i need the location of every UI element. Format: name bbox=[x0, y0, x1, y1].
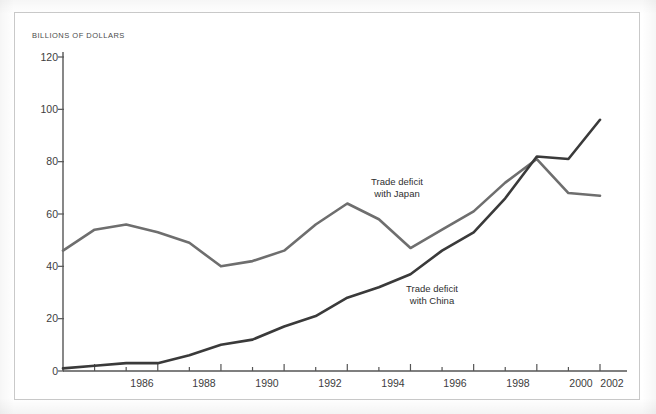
chart-screenshot: BILLIONS OF DOLLARS 120 100 80 60 40 20 … bbox=[0, 0, 656, 414]
x-tick-label-1994: 1994 bbox=[368, 377, 418, 389]
y-tick-label-120: 120 bbox=[24, 51, 58, 63]
china-series-label: Trade deficit with China bbox=[390, 283, 474, 307]
x-tick-label-1992: 1992 bbox=[305, 377, 355, 389]
x-axis-ticks bbox=[95, 364, 600, 371]
series-line-japan bbox=[63, 159, 600, 266]
x-tick-label-1998: 1998 bbox=[493, 377, 543, 389]
china-series-label-line1: Trade deficit bbox=[390, 283, 474, 295]
y-tick-label-20: 20 bbox=[24, 312, 58, 324]
y-tick-label-0: 0 bbox=[24, 365, 58, 377]
x-tick-label-2002: 2002 bbox=[587, 377, 637, 389]
line-chart: BILLIONS OF DOLLARS 120 100 80 60 40 20 … bbox=[0, 0, 656, 414]
japan-series-label-line2: with Japan bbox=[355, 188, 439, 200]
x-tick-label-1996: 1996 bbox=[430, 377, 480, 389]
x-tick-label-1986: 1986 bbox=[117, 377, 167, 389]
series-line-china bbox=[63, 120, 600, 369]
japan-series-label-line1: Trade deficit bbox=[355, 176, 439, 188]
x-tick-label-1988: 1988 bbox=[179, 377, 229, 389]
y-tick-label-40: 40 bbox=[24, 260, 58, 272]
y-tick-label-80: 80 bbox=[24, 155, 58, 167]
japan-series-label: Trade deficit with Japan bbox=[355, 176, 439, 200]
y-axis-title: BILLIONS OF DOLLARS bbox=[32, 31, 125, 40]
x-tick-label-1990: 1990 bbox=[242, 377, 292, 389]
plot-canvas bbox=[0, 0, 656, 414]
china-series-label-line2: with China bbox=[390, 295, 474, 307]
y-tick-label-60: 60 bbox=[24, 208, 58, 220]
y-tick-label-100: 100 bbox=[24, 103, 58, 115]
